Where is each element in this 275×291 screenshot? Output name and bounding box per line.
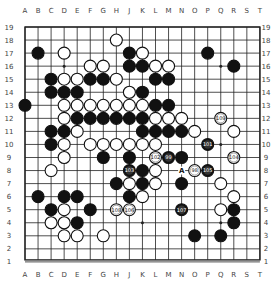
white-stone (58, 217, 70, 229)
black-stone (110, 178, 122, 190)
black-stone (71, 112, 83, 124)
white-stone (150, 60, 162, 72)
black-stone: 107 (176, 204, 188, 216)
row-label: 19 (5, 24, 14, 32)
star-point (219, 65, 222, 68)
move-number: 104 (229, 154, 239, 160)
move-number: 105 (203, 167, 213, 173)
white-stone (150, 112, 162, 124)
column-label: R (231, 7, 236, 15)
column-label: S (245, 271, 250, 279)
white-stone (58, 230, 70, 242)
column-label: P (206, 271, 210, 279)
white-stone (228, 191, 240, 203)
black-stone (45, 204, 57, 216)
black-stone (136, 165, 148, 177)
black-stone: 99 (163, 152, 175, 164)
column-label: H (114, 271, 119, 279)
white-stone (58, 47, 70, 59)
column-label: L (154, 7, 158, 15)
black-stone (163, 99, 175, 111)
black-stone (45, 86, 57, 98)
row-label: 14 (5, 89, 14, 97)
white-stone (123, 86, 135, 98)
star-point (63, 65, 66, 68)
white-stone (58, 138, 70, 150)
row-label: 10 (5, 141, 14, 149)
column-label: A (23, 7, 28, 15)
white-stone: 106 (123, 204, 135, 216)
column-label: B (36, 7, 41, 15)
row-label: 4 (7, 219, 12, 227)
white-stone (97, 60, 109, 72)
column-label: J (127, 7, 130, 15)
black-stone (202, 47, 214, 59)
row-label: 19 (262, 24, 271, 32)
row-label: 10 (262, 141, 271, 149)
row-label: 2 (7, 245, 11, 253)
column-label: E (75, 7, 79, 15)
black-stone (228, 204, 240, 216)
white-stone (123, 138, 135, 150)
black-stone (45, 125, 57, 137)
white-stone (215, 204, 227, 216)
black-stone: 101 (202, 138, 214, 150)
white-stone (71, 73, 83, 85)
column-label: T (257, 7, 263, 15)
white-stone (71, 125, 83, 137)
black-stone (123, 112, 135, 124)
black-stone (84, 112, 96, 124)
black-stone (71, 86, 83, 98)
white-stone (215, 178, 227, 190)
white-stone (110, 99, 122, 111)
row-label: 9 (7, 154, 11, 162)
row-label: 1 (264, 258, 268, 266)
column-label: S (245, 7, 250, 15)
white-stone (136, 47, 148, 59)
white-stone (189, 125, 201, 137)
go-board[interactable]: AABBCCDDEEFFGGHHJJKKLLMMNNOOPPQQRRSSTT19… (0, 0, 275, 291)
black-stone (150, 73, 162, 85)
white-stone (97, 230, 109, 242)
column-label: N (179, 7, 184, 15)
white-stone (150, 178, 162, 190)
black-stone (123, 152, 135, 164)
move-number: 103 (125, 167, 135, 173)
white-stone (163, 60, 175, 72)
row-label: 4 (264, 219, 269, 227)
white-stone: 108 (110, 204, 122, 216)
stones-layer: 1091011029910410398105108106107 (19, 34, 240, 242)
column-label: T (257, 271, 263, 279)
black-stone (136, 86, 148, 98)
move-number: 101 (203, 141, 213, 147)
row-label: 12 (262, 115, 271, 123)
white-stone (123, 99, 135, 111)
column-label: K (140, 271, 145, 279)
row-label: 6 (7, 193, 12, 201)
row-label: 14 (262, 89, 271, 97)
white-stone (150, 138, 162, 150)
black-stone (58, 86, 70, 98)
white-stone (163, 112, 175, 124)
white-stone (97, 138, 109, 150)
white-stone (84, 138, 96, 150)
row-label: 13 (5, 102, 14, 110)
column-label: R (231, 271, 236, 279)
star-point (219, 143, 222, 146)
row-label: 11 (262, 128, 271, 136)
column-label: M (166, 7, 172, 15)
black-stone (19, 99, 31, 111)
row-label: 18 (262, 37, 271, 45)
black-stone (97, 112, 109, 124)
white-stone: 104 (228, 152, 240, 164)
black-stone (58, 125, 70, 137)
row-label: 13 (262, 102, 271, 110)
black-stone (45, 73, 57, 85)
black-stone: 103 (123, 165, 135, 177)
row-label: 15 (5, 76, 14, 84)
black-stone (97, 73, 109, 85)
column-label: F (88, 7, 92, 15)
white-stone (58, 112, 70, 124)
row-label: 12 (5, 115, 14, 123)
column-label: A (23, 271, 28, 279)
